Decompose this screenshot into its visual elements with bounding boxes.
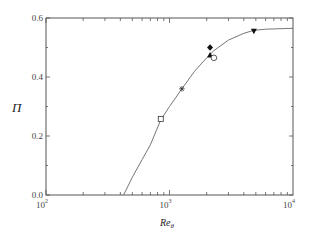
marker-square [158, 116, 163, 121]
data-markers [158, 29, 257, 122]
fit-curve [124, 28, 293, 195]
y-axis-label: Π [11, 100, 23, 115]
y-tick-label: 0.0 [32, 190, 44, 200]
chart: 0.00.20.40.6 102103104 Π Reθ [0, 0, 312, 236]
x-axis-label-subscript: θ [171, 222, 175, 230]
y-tick-label: 0.6 [32, 13, 44, 23]
x-tick-label: 102 [36, 198, 48, 210]
x-tick-label: 103 [160, 198, 172, 210]
y-tick-label: 0.2 [32, 131, 43, 141]
x-tick-label: 104 [283, 198, 295, 210]
marker-asterisk [179, 86, 185, 92]
marker-inverted-triangle [251, 29, 257, 35]
marker-circle [211, 55, 217, 61]
y-axis-ticks: 0.00.20.40.6 [32, 13, 293, 200]
y-tick-label: 0.4 [32, 72, 44, 82]
x-axis-label: Reθ [159, 217, 175, 230]
x-axis-ticks: 102103104 [36, 198, 295, 210]
x-axis-label-main: Re [159, 217, 171, 228]
marker-diamond [207, 44, 213, 50]
